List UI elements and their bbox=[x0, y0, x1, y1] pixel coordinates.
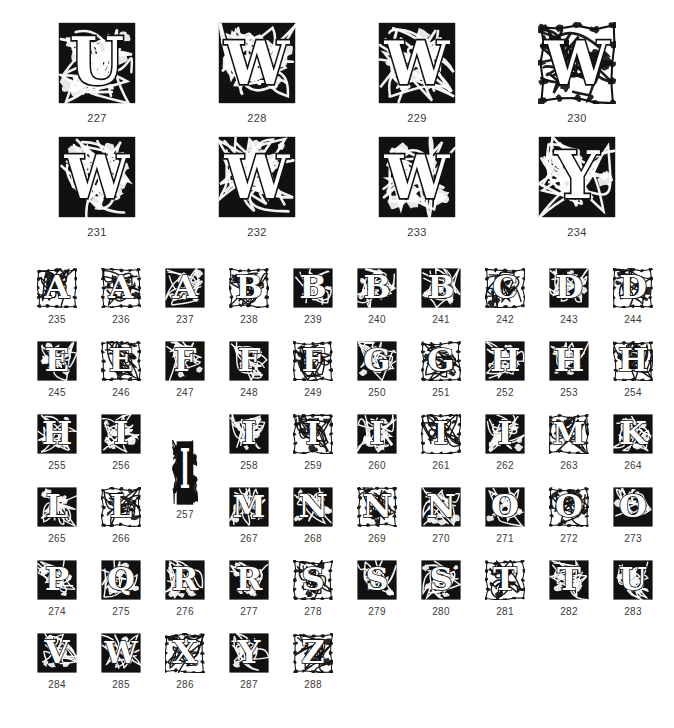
initial-cell-283[interactable]: U283 bbox=[602, 560, 664, 617]
initial-image: E bbox=[37, 341, 77, 381]
initial-cell-278[interactable]: S278 bbox=[282, 560, 344, 617]
initial-cell-237[interactable]: A237 bbox=[154, 268, 216, 325]
initial-cell-256[interactable]: I256 bbox=[90, 414, 152, 471]
initial-cell-259[interactable]: I259 bbox=[282, 414, 344, 471]
initial-cell-263[interactable]: M263 bbox=[538, 414, 600, 471]
initial-cell-271[interactable]: O271 bbox=[474, 487, 536, 544]
initial-letter-t: T bbox=[493, 560, 517, 598]
initial-letter-r: R bbox=[236, 560, 263, 598]
initial-caption: 270 bbox=[432, 533, 450, 544]
initial-cell-231[interactable]: W231 bbox=[45, 136, 149, 238]
initial-cell-284[interactable]: V284 bbox=[26, 633, 88, 690]
initial-cell-240[interactable]: B240 bbox=[346, 268, 408, 325]
initial-caption: 237 bbox=[176, 314, 194, 325]
initial-cell-258[interactable]: I258 bbox=[218, 414, 280, 471]
initial-letter-g: G bbox=[427, 341, 454, 379]
initial-letter-u: U bbox=[619, 560, 647, 598]
initial-cell-281[interactable]: T281 bbox=[474, 560, 536, 617]
initial-image: L bbox=[37, 487, 77, 527]
initial-cell-245[interactable]: E245 bbox=[26, 341, 88, 398]
initial-cell-239[interactable]: B239 bbox=[282, 268, 344, 325]
initial-cell-252[interactable]: H252 bbox=[474, 341, 536, 398]
initial-cell-227[interactable]: U227 bbox=[45, 22, 149, 124]
initial-glyph: W bbox=[218, 22, 296, 104]
initial-cell-241[interactable]: B241 bbox=[410, 268, 472, 325]
initial-cell-274[interactable]: P274 bbox=[26, 560, 88, 617]
initial-cell-282[interactable]: T282 bbox=[538, 560, 600, 617]
initial-cell-238[interactable]: B238 bbox=[218, 268, 280, 325]
initial-cell-234[interactable]: Y234 bbox=[525, 136, 629, 238]
initial-glyph: C bbox=[485, 268, 525, 308]
initial-cell-272[interactable]: O272 bbox=[538, 487, 600, 544]
initial-cell-287[interactable]: Y287 bbox=[218, 633, 280, 690]
initial-glyph: M bbox=[229, 487, 269, 527]
initial-cell-251[interactable]: G251 bbox=[410, 341, 472, 398]
initial-cell-275[interactable]: Q275 bbox=[90, 560, 152, 617]
initial-glyph: T bbox=[549, 560, 589, 600]
initial-cell-230[interactable]: W230 bbox=[525, 22, 629, 124]
initial-cell-266[interactable]: L266 bbox=[90, 487, 152, 544]
initial-cell-229[interactable]: W229 bbox=[365, 22, 469, 124]
initial-letter-f: F bbox=[238, 341, 261, 379]
initial-cell-235[interactable]: A235 bbox=[26, 268, 88, 325]
initial-letter-c: C bbox=[492, 268, 517, 306]
initial-image: I bbox=[172, 440, 198, 506]
initial-cell-264[interactable]: K264 bbox=[602, 414, 664, 471]
initial-caption: 264 bbox=[624, 460, 642, 471]
initial-cell-253[interactable]: H253 bbox=[538, 341, 600, 398]
initial-cell-269[interactable]: N269 bbox=[346, 487, 408, 544]
initial-cell-236[interactable]: A236 bbox=[90, 268, 152, 325]
initial-caption: 263 bbox=[560, 460, 578, 471]
initial-cell-246[interactable]: E246 bbox=[90, 341, 152, 398]
initial-cell-233[interactable]: W233 bbox=[365, 136, 469, 238]
initial-caption: 236 bbox=[112, 314, 130, 325]
initial-cell-273[interactable]: O273 bbox=[602, 487, 664, 544]
initial-cell-262[interactable]: I262 bbox=[474, 414, 536, 471]
initial-cell-248[interactable]: F248 bbox=[218, 341, 280, 398]
initial-caption: 240 bbox=[368, 314, 386, 325]
initial-cell-260[interactable]: I260 bbox=[346, 414, 408, 471]
initial-cell-268[interactable]: N268 bbox=[282, 487, 344, 544]
initial-cell-270[interactable]: N270 bbox=[410, 487, 472, 544]
initial-image: Y bbox=[538, 136, 616, 218]
initial-image: I bbox=[485, 414, 525, 454]
small-initials-row: P274Q275R276R277S278S279S280T281T282U283 bbox=[0, 560, 674, 633]
initial-cell-249[interactable]: F249 bbox=[282, 341, 344, 398]
initial-cell-285[interactable]: W285 bbox=[90, 633, 152, 690]
initial-letter-z: Z bbox=[301, 633, 324, 671]
initial-cell-247[interactable]: F247 bbox=[154, 341, 216, 398]
initial-glyph: N bbox=[293, 487, 333, 527]
initial-glyph: O bbox=[549, 487, 589, 527]
initial-cell-280[interactable]: S280 bbox=[410, 560, 472, 617]
initial-cell-243[interactable]: D243 bbox=[538, 268, 600, 325]
initial-glyph: Y bbox=[538, 136, 616, 218]
initial-letter-n: N bbox=[298, 487, 327, 525]
initial-cell-286[interactable]: X286 bbox=[154, 633, 216, 690]
initial-cell-288[interactable]: Z288 bbox=[282, 633, 344, 690]
initial-glyph: H bbox=[549, 341, 589, 381]
initial-caption: 230 bbox=[567, 113, 586, 124]
initial-cell-265[interactable]: L265 bbox=[26, 487, 88, 544]
initial-cell-277[interactable]: R277 bbox=[218, 560, 280, 617]
initial-caption: 244 bbox=[624, 314, 642, 325]
initial-cell-261[interactable]: I261 bbox=[410, 414, 472, 471]
initial-cell-250[interactable]: G250 bbox=[346, 341, 408, 398]
initial-cell-276[interactable]: R276 bbox=[154, 560, 216, 617]
initial-cell-244[interactable]: D244 bbox=[602, 268, 664, 325]
initial-letter-i: I bbox=[180, 440, 190, 501]
initial-glyph: G bbox=[357, 341, 397, 381]
initial-image: I bbox=[357, 414, 397, 454]
initial-caption: 267 bbox=[240, 533, 258, 544]
initial-cell-228[interactable]: W228 bbox=[205, 22, 309, 124]
initial-cell-279[interactable]: S279 bbox=[346, 560, 408, 617]
initial-image: B bbox=[357, 268, 397, 308]
initial-cell-255[interactable]: H255 bbox=[26, 414, 88, 471]
initial-cell-267[interactable]: M267 bbox=[218, 487, 280, 544]
initial-glyph: W bbox=[101, 633, 141, 673]
initial-letter-m: M bbox=[553, 416, 586, 451]
initial-glyph: I bbox=[229, 414, 269, 454]
initial-cell-242[interactable]: C242 bbox=[474, 268, 536, 325]
initial-cell-232[interactable]: W232 bbox=[205, 136, 309, 238]
initial-cell-254[interactable]: H254 bbox=[602, 341, 664, 398]
large-initials-section: U227W228W229W230W231W232W233Y234 bbox=[0, 22, 674, 250]
